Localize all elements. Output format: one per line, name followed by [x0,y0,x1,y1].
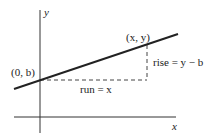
general-point-label: (x, y) [126,31,150,44]
y-axis-label: y [43,6,49,18]
intercept-point-label: (0, b) [11,66,35,79]
x-axis-label: x [171,120,177,132]
slope-diagram: y x (0, b) (x, y) rise = y − b run = x [0,0,206,139]
rise-label: rise = y − b [153,56,204,68]
run-label: run = x [80,83,112,95]
